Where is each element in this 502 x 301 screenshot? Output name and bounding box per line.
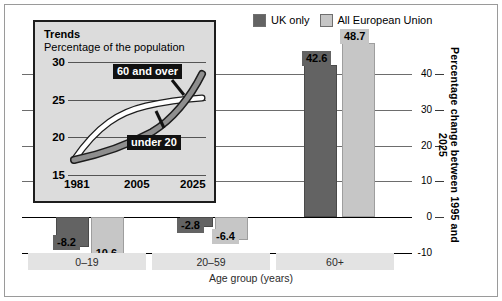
value-label-uk-only-60-plus: 42.6 bbox=[302, 51, 331, 66]
inset-title: Trends bbox=[44, 28, 80, 40]
chart-legend: UK only All European Union bbox=[253, 14, 432, 27]
legend-item-all-european-union: All European Union bbox=[320, 14, 433, 27]
value-label-uk-only-0-19: -8.2 bbox=[53, 235, 80, 250]
inset-y-tick-label-30: 30 bbox=[52, 57, 65, 68]
value-label-all-european-union-20-59: -6.4 bbox=[212, 229, 239, 244]
legend-label-all-european-union: All European Union bbox=[338, 15, 433, 26]
bar-uk-only-60-plus[interactable] bbox=[304, 65, 337, 218]
inset-x-tick-label-1981: 1981 bbox=[64, 178, 90, 190]
inset-trends-chart: Trends Percentage of the population 30 2… bbox=[33, 20, 216, 203]
x-axis-categories: 0–19 20–59 60+ bbox=[22, 253, 412, 270]
y-tick-label-30: 30 bbox=[421, 105, 432, 115]
annotation-leader-60-and-over bbox=[172, 80, 184, 95]
inset-x-tick-label-2025: 2025 bbox=[180, 178, 206, 190]
inset-gridline-15 bbox=[68, 175, 206, 176]
legend-swatch-icon bbox=[253, 14, 266, 27]
legend-label-uk-only: UK only bbox=[271, 15, 310, 26]
y-tick-label-0: 0 bbox=[426, 212, 432, 222]
x-tick-label-0-19: 0–19 bbox=[28, 253, 146, 270]
y-tick-label-40: 40 bbox=[421, 69, 432, 79]
y-tick-label-minus-10: -10 bbox=[418, 248, 432, 258]
value-label-uk-only-20-59: -2.8 bbox=[177, 218, 204, 233]
legend-swatch-icon bbox=[320, 14, 333, 27]
x-axis-title: Age group (years) bbox=[0, 272, 502, 284]
y-tick-label-20: 20 bbox=[421, 141, 432, 151]
figure-root: UK only All European Union -8.2 -10.6 bbox=[0, 0, 502, 301]
inset-subtitle: Percentage of the population bbox=[44, 41, 185, 53]
y-axis-title: Percentage change between 1995 and 2025 bbox=[440, 42, 458, 248]
y-tick-label-10: 10 bbox=[421, 176, 432, 186]
inset-y-tick-label-20: 20 bbox=[52, 132, 65, 143]
bar-all-european-union-60-plus[interactable] bbox=[342, 43, 375, 218]
x-tick-label-60-plus: 60+ bbox=[276, 253, 394, 270]
y-axis-title-text: Percentage change between 1995 and 2025 bbox=[437, 42, 461, 248]
bar-group-60-plus: 42.6 48.7 bbox=[276, 38, 400, 253]
inset-y-tick-label-25: 25 bbox=[52, 94, 65, 105]
legend-item-uk-only: UK only bbox=[253, 14, 310, 27]
annotation-60-and-over: 60 and over bbox=[113, 64, 182, 79]
value-label-all-european-union-60-plus: 48.7 bbox=[340, 29, 369, 44]
annotation-under-20: under 20 bbox=[127, 135, 181, 150]
inset-x-tick-label-2005: 2005 bbox=[124, 178, 150, 190]
x-tick-label-20-59: 20–59 bbox=[152, 253, 270, 270]
